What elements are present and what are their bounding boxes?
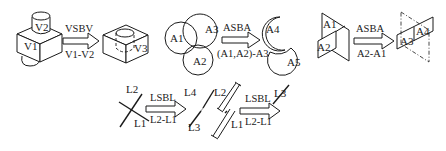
label-l1-cross: L1 — [134, 117, 146, 129]
l-break — [201, 108, 203, 111]
label-a4: A4 — [266, 23, 280, 35]
lsbl-cross-panel: L2 L1 LSBL L2-L1 L4 L3 — [119, 83, 214, 133]
l-junction-mark — [225, 111, 227, 113]
label-l3-overlap: L3 — [274, 87, 287, 99]
label-l2-cross: L2 — [126, 83, 138, 95]
label-l2-overlap: L2 — [214, 86, 226, 98]
lsbl-overlap-operation-label: LSBL — [245, 93, 271, 104]
asba-circles-expression-label: (A1,A2)-A3 — [217, 48, 269, 60]
asba-circles-arrow — [222, 32, 260, 48]
label-l1-overlap: L1 — [231, 118, 243, 130]
vsbv-operation-label: VSBV — [65, 23, 93, 34]
asba-circles-panel: A1 A3 A2 ASBA (A1,A2)-A3 A4 A5 — [165, 14, 301, 75]
asba-planes-expression-label: A2-A1 — [357, 48, 386, 59]
label-v2: V2 — [35, 21, 48, 33]
label-a2-plane: A2 — [317, 41, 330, 53]
l4-line — [203, 90, 214, 108]
l1-end-bottom — [211, 135, 218, 139]
vsbv-panel: V2 V1 VSBV V1-V2 V3 — [17, 12, 148, 66]
lsbl-cross-operation-label: LSBL — [150, 92, 176, 103]
lsbl-cross-expression-label: L2-L1 — [150, 114, 177, 125]
label-v1: V1 — [24, 40, 37, 52]
asba-planes-operation-label: ASBA — [356, 23, 384, 34]
label-a1-plane: A1 — [323, 18, 336, 30]
asba-circles-operation-label: ASBA — [223, 22, 251, 33]
lsbl-overlap-panel: L2 L1 LSBL L2-L1 L3 — [211, 82, 289, 139]
vsbv-arrow — [63, 33, 99, 49]
vsbv-expression-label: V1-V2 — [65, 49, 94, 60]
l2-end-bottom — [217, 108, 223, 112]
asba-planes-arrow — [354, 33, 394, 49]
label-l4-cross: L4 — [184, 86, 197, 98]
label-a4-plane: A4 — [416, 25, 430, 37]
label-a3-plane: A3 — [400, 35, 414, 47]
label-a1: A1 — [170, 32, 183, 44]
label-l3-cross: L3 — [188, 121, 201, 133]
boolean-operations-diagram: V2 V1 VSBV V1-V2 V3 A1 A3 A2 ASBA (A1,A2… — [0, 0, 446, 151]
asba-planes-panel: A1 A2 ASBA A2-A1 A3 A4 — [317, 12, 433, 62]
label-a2: A2 — [193, 55, 206, 67]
label-v3: V3 — [134, 42, 148, 54]
v2-cylinder-top — [32, 12, 50, 20]
lsbl-overlap-expression-label: L2-L1 — [245, 116, 272, 127]
label-a5: A5 — [287, 56, 301, 68]
label-a3: A3 — [205, 23, 219, 35]
